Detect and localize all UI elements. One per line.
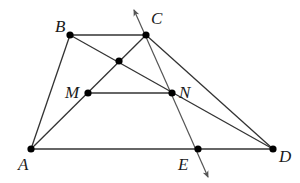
label-B: B — [55, 17, 66, 36]
label-C: C — [151, 9, 163, 28]
label-N: N — [178, 83, 192, 102]
segment-CD — [146, 35, 273, 149]
point-D — [269, 145, 276, 152]
arrow-line-CNE-lower — [170, 91, 208, 177]
label-M: M — [64, 83, 80, 102]
point-B — [66, 31, 73, 38]
point-C — [142, 31, 149, 38]
point-M — [84, 89, 91, 96]
geometry-diagram: B C M N A E D — [0, 0, 300, 183]
point-N — [168, 89, 175, 96]
label-A: A — [17, 155, 29, 174]
label-E: E — [177, 155, 189, 174]
point-E — [194, 145, 201, 152]
point-A — [27, 145, 34, 152]
point-O — [115, 57, 122, 64]
label-D: D — [278, 147, 292, 166]
